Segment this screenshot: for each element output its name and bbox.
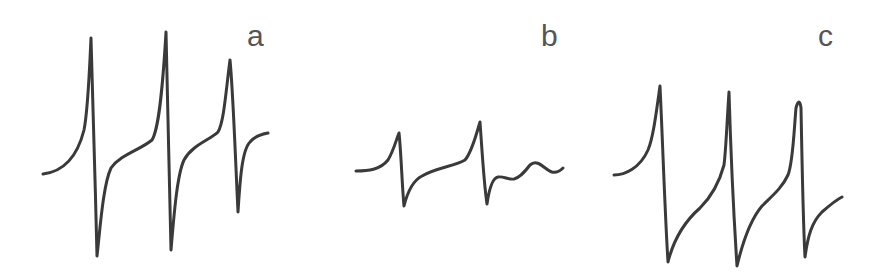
panel-a-label: a — [247, 19, 264, 52]
panel-b: b — [356, 19, 563, 206]
panel-c-label: c — [818, 19, 833, 52]
panel-c: c — [614, 19, 842, 266]
spectrum-c-trace — [614, 86, 842, 266]
panel-b-label: b — [541, 19, 558, 52]
spectra-figure: a b c — [0, 0, 885, 276]
spectrum-b-trace — [356, 122, 563, 206]
panel-a: a — [43, 19, 268, 256]
spectrum-a-trace — [43, 32, 268, 256]
